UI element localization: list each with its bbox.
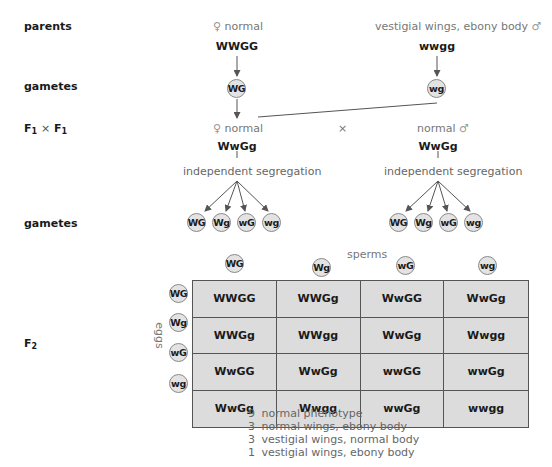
punnett-cell: wwGG — [361, 354, 445, 391]
parent-female-gamete: WG — [227, 79, 246, 98]
punnett-cell: WWGg — [193, 318, 277, 355]
sperm-gamete: wg — [478, 256, 497, 275]
f1-female-gamete: Wg — [212, 213, 231, 232]
f1-male-gamete: wG — [439, 213, 458, 232]
f2-label: F — [24, 337, 32, 350]
phenotype-text: normal — [417, 122, 456, 135]
phenotype-text: vestigial wings, ebony body — [375, 20, 528, 33]
punnett-cell: Wwgg — [444, 318, 528, 355]
ratio-item: 3 normal wings, ebony body — [248, 420, 419, 433]
f2-subscript: 2 — [32, 342, 38, 351]
phenotype-text: normal — [225, 20, 264, 33]
f1-female-genotype: WwGg — [207, 140, 267, 153]
ratio-label: normal wings, ebony body — [262, 420, 407, 433]
f1-male-gamete: Wg — [414, 213, 433, 232]
f1-female-gamete: wg — [262, 213, 281, 232]
ratio-item: 9 normal phenotype — [248, 407, 419, 420]
egg-gamete: Wg — [169, 313, 188, 332]
f1-female-process: independent segregation — [183, 165, 321, 178]
sperm-gamete: wG — [396, 256, 415, 275]
row-label-f1-cross: F1 × F1 — [24, 122, 67, 136]
parent-male-genotype: wwgg — [407, 40, 467, 53]
ratio-count: 3 — [248, 420, 258, 433]
cross-symbol: × — [338, 122, 347, 135]
parent-female-phenotype: ♀ normal — [213, 20, 263, 33]
ratio-count: 9 — [248, 407, 258, 420]
f1-male-genotype: WwGg — [408, 140, 468, 153]
punnett-cell: WwGg — [277, 354, 361, 391]
sperms-label: sperms — [347, 248, 387, 261]
f1-label: F — [54, 122, 62, 135]
male-symbol-icon: ♂ — [459, 122, 469, 135]
egg-gamete: wg — [169, 374, 188, 393]
f1-female-gamete: WG — [187, 213, 206, 232]
eggs-label: eggs — [153, 322, 166, 348]
f1-female-phenotype: ♀ normal — [213, 122, 263, 135]
punnett-square: WWGG WWGg WwGG WwGg WWGg WWgg WwGg Wwgg … — [192, 280, 529, 428]
f1-male-gamete: WG — [389, 213, 408, 232]
f1-male-phenotype: normal ♂ — [417, 122, 469, 135]
phenotype-text: normal — [225, 122, 264, 135]
punnett-cell: WWGG — [193, 281, 277, 318]
phenotype-ratio-list: 9 normal phenotype 3 normal wings, ebony… — [248, 407, 419, 459]
female-symbol-icon: ♀ — [213, 20, 221, 33]
ratio-item: 1 vestigial wings, ebony body — [248, 446, 419, 459]
f1-male-gamete: wg — [464, 213, 483, 232]
f1-female-gamete: wG — [237, 213, 256, 232]
f1-subscript: 1 — [32, 127, 38, 136]
row-label-gametes: gametes — [24, 80, 78, 93]
ratio-label: normal phenotype — [262, 407, 363, 420]
ratio-item: 3 vestigial wings, normal body — [248, 433, 419, 446]
f1-label: F — [24, 122, 32, 135]
parent-female-genotype: WWGG — [207, 40, 267, 53]
sperm-gamete: WG — [225, 254, 244, 273]
ratio-count: 1 — [248, 446, 258, 459]
parent-male-phenotype: vestigial wings, ebony body ♂ — [375, 20, 541, 33]
egg-gamete: WG — [169, 284, 188, 303]
male-symbol-icon: ♂ — [532, 20, 542, 33]
times-symbol: × — [41, 122, 50, 135]
row-label-parents: parents — [24, 20, 72, 33]
parent-male-gamete: wg — [427, 79, 446, 98]
punnett-cell: WWGg — [277, 281, 361, 318]
ratio-count: 3 — [248, 433, 258, 446]
punnett-cell: WwGG — [361, 281, 445, 318]
punnett-cell: WwGg — [361, 318, 445, 355]
f1-subscript: 1 — [62, 127, 68, 136]
f1-male-process: independent segregation — [384, 165, 522, 178]
punnett-cell: wwgg — [444, 391, 528, 428]
punnett-cell: WwGg — [444, 281, 528, 318]
punnett-cell: wwGg — [444, 354, 528, 391]
ratio-label: vestigial wings, ebony body — [262, 446, 415, 459]
row-label-f2: F2 — [24, 337, 37, 351]
row-label-gametes-f1: gametes — [24, 217, 78, 230]
ratio-label: vestigial wings, normal body — [262, 433, 420, 446]
punnett-cell: WwGG — [193, 354, 277, 391]
egg-gamete: wG — [169, 343, 188, 362]
sperm-gamete: Wg — [312, 258, 331, 277]
punnett-cell: WWgg — [277, 318, 361, 355]
female-symbol-icon: ♀ — [213, 122, 221, 135]
